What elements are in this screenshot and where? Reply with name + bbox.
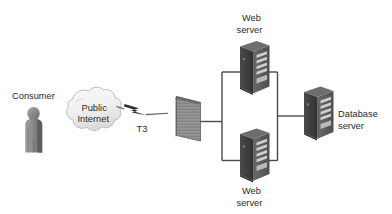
database-server-label-line1: Database bbox=[338, 109, 378, 119]
node-consumer[interactable]: Consumer bbox=[12, 91, 55, 153]
server-tower-icon bbox=[304, 87, 334, 141]
network-diagram: Consumer Public Internet bbox=[0, 0, 392, 214]
lightning-bolt-icon bbox=[124, 104, 147, 115]
server-tower-icon bbox=[240, 41, 270, 95]
node-firewall[interactable] bbox=[176, 97, 222, 142]
internet-label-line2: Internet bbox=[78, 114, 110, 124]
node-web-server-top[interactable]: Web server bbox=[237, 13, 270, 95]
server-tower-icon bbox=[240, 129, 270, 183]
web-server-bottom-label-line1: Web bbox=[242, 186, 261, 196]
node-database-server[interactable]: Database server bbox=[304, 87, 378, 141]
person-icon bbox=[25, 107, 42, 153]
firewall-brick-wall-icon bbox=[176, 97, 201, 142]
web-server-top-label-line1: Web bbox=[242, 13, 261, 23]
internet-label-line1: Public bbox=[82, 103, 108, 113]
consumer-label: Consumer bbox=[12, 91, 55, 101]
bolt-tail-right bbox=[146, 113, 168, 114]
web-server-top-label-line2: server bbox=[237, 25, 263, 35]
database-server-label-line2: server bbox=[338, 121, 364, 131]
network-diagram-canvas: Consumer Public Internet bbox=[0, 0, 392, 214]
node-public-internet[interactable]: Public Internet bbox=[67, 87, 122, 130]
t3-link-label: T3 bbox=[137, 124, 148, 134]
link-internet-to-firewall[interactable]: T3 bbox=[117, 104, 169, 134]
node-web-server-bottom[interactable]: Web server bbox=[237, 129, 270, 209]
web-server-bottom-label-line2: server bbox=[237, 198, 263, 208]
